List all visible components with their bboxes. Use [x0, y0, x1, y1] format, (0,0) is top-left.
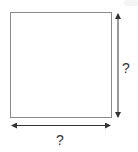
- background-smudge: [124, 0, 138, 6]
- width-label: ?: [56, 133, 64, 147]
- height-label: ?: [122, 61, 130, 75]
- square-diagram: [0, 0, 138, 152]
- square-shape: [11, 13, 112, 118]
- diagram-canvas: ? ?: [0, 0, 138, 152]
